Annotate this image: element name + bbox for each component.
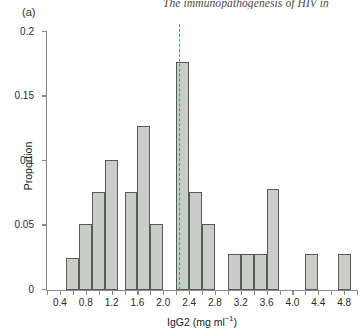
histogram-bar	[125, 192, 138, 290]
x-tick	[73, 290, 74, 295]
y-tick-label: 0	[28, 283, 34, 294]
histogram-bar	[92, 192, 105, 290]
x-tick	[125, 290, 126, 295]
y-tick: 0.15	[42, 95, 47, 96]
x-tick	[215, 290, 216, 295]
histogram-bar	[176, 62, 189, 290]
x-tick	[292, 290, 293, 295]
y-tick: 0.2	[42, 31, 47, 32]
y-tick: 0.1	[42, 160, 47, 161]
histogram-bar	[241, 254, 254, 290]
x-tick-label: 3.2	[234, 297, 248, 308]
x-tick	[163, 290, 164, 295]
running-header: The immunopathogenesis of HIV in	[163, 0, 363, 9]
x-tick	[137, 290, 138, 295]
histogram-bar	[254, 254, 267, 290]
x-tick	[280, 290, 281, 295]
x-tick-label: 2.4	[182, 297, 196, 308]
x-tick	[357, 290, 358, 295]
panel-label: (a)	[22, 6, 35, 18]
x-tick	[112, 290, 113, 295]
histogram-bar	[150, 224, 163, 290]
histogram-bar	[189, 192, 202, 290]
histogram-bar	[228, 254, 241, 290]
y-tick-label: 0.05	[15, 219, 34, 230]
x-axis-label: IgG2 (mg ml−1)	[47, 314, 357, 328]
x-tick-label: 4.4	[311, 297, 325, 308]
x-tick-label: 4.0	[285, 297, 299, 308]
y-tick-label: 0.1	[20, 154, 34, 165]
x-tick	[189, 290, 190, 295]
histogram-bar	[66, 258, 79, 290]
x-tick	[150, 290, 151, 295]
histogram-bar	[338, 254, 351, 290]
histogram-bar	[202, 224, 215, 290]
histogram-bar	[137, 126, 150, 290]
y-tick: 0.05	[42, 224, 47, 225]
x-tick	[318, 290, 319, 295]
x-tick	[267, 290, 268, 295]
histogram-bar	[305, 254, 318, 290]
x-tick-label: 0.8	[79, 297, 93, 308]
x-tick-label: 1.6	[130, 297, 144, 308]
y-axis-line	[46, 32, 47, 290]
x-tick	[86, 290, 87, 295]
x-tick	[344, 290, 345, 295]
x-tick	[202, 290, 203, 295]
x-tick	[228, 290, 229, 295]
x-tick-label: 4.8	[337, 297, 351, 308]
figure-panel-a: The immunopathogenesis of HIV in (a) Pro…	[0, 0, 363, 332]
reference-line	[179, 24, 180, 290]
x-tick	[241, 290, 242, 295]
histogram-bar	[267, 189, 280, 290]
x-tick-label: 2.8	[208, 297, 222, 308]
histogram-bar	[79, 224, 92, 290]
x-tick	[331, 290, 332, 295]
histogram-bar	[105, 160, 118, 290]
x-tick	[99, 290, 100, 295]
x-tick	[176, 290, 177, 295]
x-tick-label: 0.4	[53, 297, 67, 308]
x-tick-label: 3.6	[260, 297, 274, 308]
y-axis-label: Proportion	[22, 142, 34, 190]
y-tick-label: 0.15	[15, 90, 34, 101]
x-tick	[254, 290, 255, 295]
x-tick-label: 2.0	[156, 297, 170, 308]
x-tick-label: 1.2	[105, 297, 119, 308]
plot-area: 00.050.10.150.2 0.40.81.21.62.02.42.83.2…	[47, 32, 357, 290]
x-tick	[47, 290, 48, 295]
y-tick-label: 0.2	[20, 25, 34, 36]
x-axis-label-text: IgG2 (mg ml	[167, 316, 225, 328]
x-tick	[305, 290, 306, 295]
x-axis-label-tail: )	[233, 316, 237, 328]
x-tick	[60, 290, 61, 295]
